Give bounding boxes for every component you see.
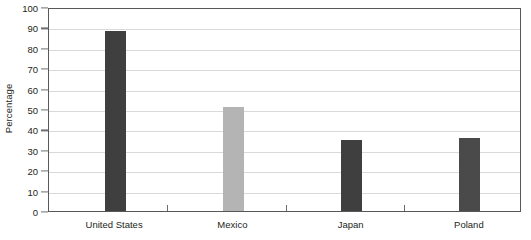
y-tick-label: 100: [0, 3, 38, 14]
y-tick-mark: [41, 150, 48, 151]
x-category-label: United States: [86, 219, 143, 230]
bar-chart: Percentage 0102030405060708090100 United…: [0, 0, 531, 240]
y-tick-label: 70: [0, 64, 38, 75]
x-tick-mark: [286, 205, 287, 211]
gridline: [49, 9, 520, 10]
y-tick-mark: [41, 89, 48, 90]
y-tick-label: 80: [0, 43, 38, 54]
y-tick-mark: [41, 28, 48, 29]
plot-area: [48, 8, 521, 212]
y-tick-label: 60: [0, 84, 38, 95]
y-tick-label: 0: [0, 207, 38, 218]
y-tick-label: 50: [0, 105, 38, 116]
y-tick-mark: [41, 7, 48, 8]
bar-japan: [341, 140, 362, 211]
y-tick-mark: [41, 171, 48, 172]
y-tick-label: 30: [0, 145, 38, 156]
gridline: [49, 213, 520, 214]
y-tick-label: 40: [0, 125, 38, 136]
bar-mexico: [223, 107, 244, 211]
x-category-label: Mexico: [217, 219, 247, 230]
y-tick-mark: [41, 48, 48, 49]
y-tick-mark: [41, 191, 48, 192]
y-tick-mark: [41, 109, 48, 110]
bar-united-states: [105, 31, 126, 211]
y-tick-mark: [41, 211, 48, 212]
y-tick-label: 90: [0, 23, 38, 34]
x-tick-mark: [404, 205, 405, 211]
gridline: [49, 29, 520, 30]
x-tick-mark: [167, 205, 168, 211]
y-tick-label: 10: [0, 186, 38, 197]
x-category-label: Japan: [338, 219, 364, 230]
bar-poland: [459, 138, 480, 211]
y-tick-mark: [41, 130, 48, 131]
y-tick-label: 20: [0, 166, 38, 177]
x-category-label: Poland: [454, 219, 484, 230]
y-tick-mark: [41, 69, 48, 70]
